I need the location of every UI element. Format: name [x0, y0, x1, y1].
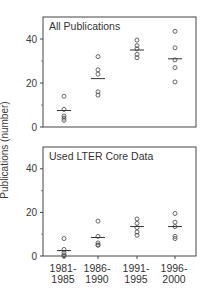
- series-1991-1995: [130, 217, 144, 237]
- data-point: [173, 220, 177, 224]
- data-point: [173, 66, 177, 70]
- y-tick-label: 20: [26, 78, 38, 89]
- panel-title: All Publications: [49, 20, 120, 32]
- panel-title: Used LTER Core Data: [49, 150, 153, 162]
- series-1981-1985: [57, 237, 71, 258]
- data-point: [173, 80, 177, 84]
- y-axis-label: Publications (number): [0, 101, 10, 198]
- panel-used-lter-core-data: 02040Used LTER Core Data: [26, 147, 196, 262]
- series-1986-1990: [91, 219, 105, 247]
- y-tick-label: 0: [31, 251, 37, 262]
- x-tick-label: 1985: [51, 273, 75, 285]
- data-point: [173, 211, 177, 215]
- series-1981-1985: [57, 94, 71, 122]
- series-1991-1995: [130, 38, 144, 60]
- y-tick-label: 0: [31, 122, 37, 133]
- data-point: [96, 55, 100, 59]
- y-tick-label: 20: [26, 207, 38, 218]
- x-tick-label: 2000: [162, 273, 186, 285]
- publications-chart: 02040All Publications02040Used LTER Core…: [0, 0, 207, 294]
- data-point: [135, 38, 139, 42]
- data-point: [96, 219, 100, 223]
- panel-all-publications: 02040All Publications: [26, 17, 196, 133]
- data-point: [62, 94, 66, 98]
- data-point: [62, 237, 66, 241]
- data-point: [96, 68, 100, 72]
- data-point: [135, 217, 139, 221]
- data-point: [173, 29, 177, 33]
- data-point: [96, 72, 100, 76]
- series-1996-2000: [168, 211, 182, 240]
- y-tick-label: 40: [26, 163, 38, 174]
- x-tick-label: 1990: [85, 273, 109, 285]
- data-point: [173, 46, 177, 50]
- series-1996-2000: [168, 29, 182, 84]
- series-1986-1990: [91, 55, 105, 98]
- y-tick-label: 40: [26, 34, 38, 45]
- x-tick-label: 1995: [124, 273, 148, 285]
- data-point: [135, 221, 139, 225]
